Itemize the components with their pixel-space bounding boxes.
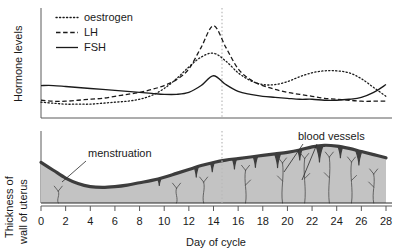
- annotation-menstruation-label: menstruation: [88, 147, 152, 159]
- x-axis-tick-label: 12: [183, 215, 195, 227]
- x-axis-tick-label: 6: [112, 215, 118, 227]
- x-axis-tick-label: 22: [306, 215, 318, 227]
- top-panel-y-axis-label: Hormone levels: [12, 25, 24, 102]
- legend-label-oestrogen: oestrogen: [84, 11, 133, 23]
- x-axis-tick-label: 0: [38, 215, 44, 227]
- x-axis-tick-label: 28: [380, 215, 392, 227]
- x-axis-tick-label: 24: [331, 215, 343, 227]
- x-axis-tick-label: 18: [257, 215, 269, 227]
- curve-fsh: [41, 76, 386, 101]
- legend-item-fsh: FSH: [56, 41, 106, 53]
- x-axis-tick-label: 8: [137, 215, 143, 227]
- annotation-menstruation-leader: [62, 161, 86, 182]
- x-axis-title: Day of cycle: [186, 236, 246, 248]
- x-axis: 0246810121416182022242628 Day of cycle: [38, 206, 392, 248]
- bottom-panel: Thickness of wall of uterus menstruation…: [3, 130, 392, 245]
- x-axis-tick-label: 10: [158, 215, 170, 227]
- x-axis-tick-label: 26: [355, 215, 367, 227]
- legend-item-oestrogen: oestrogen: [56, 11, 133, 23]
- bottom-panel-y-axis-label-line1: Thickness of: [3, 175, 15, 238]
- x-axis-tick-label: 4: [87, 215, 93, 227]
- bottom-panel-y-axis-label-line2: wall of uterus: [17, 179, 29, 245]
- curve-oestrogen: [41, 53, 386, 104]
- top-panel: Hormone levels oestrogen LH FSH: [12, 8, 392, 118]
- top-panel-axes: [41, 8, 392, 118]
- x-axis-tick-label: 20: [281, 215, 293, 227]
- menstrual-cycle-figure: Hormone levels oestrogen LH FSH Thickne: [0, 0, 401, 251]
- legend-item-lh: LH: [56, 26, 98, 38]
- x-axis-tick-label: 2: [63, 215, 69, 227]
- x-axis-tick-labels: 0246810121416182022242628: [38, 215, 392, 227]
- legend-label-lh: LH: [84, 26, 98, 38]
- legend: oestrogen LH FSH: [56, 11, 133, 53]
- annotation-blood-vessels-label: blood vessels: [298, 130, 365, 142]
- legend-label-fsh: FSH: [84, 41, 106, 53]
- x-axis-ticks: [41, 206, 386, 211]
- annotation-menstruation: menstruation: [62, 147, 152, 182]
- x-axis-tick-label: 14: [207, 215, 219, 227]
- figure-canvas: Hormone levels oestrogen LH FSH Thickne: [0, 0, 401, 251]
- x-axis-tick-label: 16: [232, 215, 244, 227]
